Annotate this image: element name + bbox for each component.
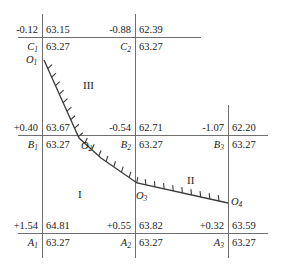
geological-section-figure: -0.1263.15C163.27-0.8862.39C263.27+0.406…: [0, 0, 285, 272]
value-B3: 62.20: [232, 123, 256, 134]
value-A3: 63.59: [232, 221, 256, 232]
base-value-A3: 63.27: [232, 238, 256, 249]
node-label-C2: C2: [61, 42, 131, 53]
region-III: III: [83, 79, 94, 91]
node-label-A1: A1: [0, 238, 38, 249]
hatch-tick: [129, 172, 131, 178]
node-label-A2: A2: [61, 238, 131, 249]
region-II: II: [187, 174, 194, 186]
horizontal-line-row-a: [18, 233, 268, 234]
hatch-tick: [164, 183, 165, 189]
vline-1: [42, 14, 43, 258]
node-label-B3: B3: [154, 140, 224, 151]
hatch-tick: [106, 156, 108, 162]
hatch-tick: [145, 179, 146, 185]
hatch-tick: [48, 65, 52, 69]
node-label-C1: C1: [0, 42, 38, 53]
hatch-tick: [191, 189, 192, 195]
hatch-tick: [52, 73, 56, 77]
base-value-B3: 63.27: [232, 140, 256, 151]
vline-2: [135, 14, 136, 258]
delta-B2: -0.54: [61, 123, 131, 134]
node-label-B1: B1: [0, 140, 38, 151]
delta-C2: -0.88: [61, 25, 131, 36]
delta-B1: +0.40: [0, 123, 38, 134]
point-label-O4: O4: [231, 196, 242, 207]
hatch-tick: [154, 181, 155, 187]
node-label-B2: B2: [61, 140, 131, 151]
horizontal-line-row-c: [18, 37, 201, 38]
region-I: I: [78, 188, 82, 200]
delta-A1: +1.54: [0, 221, 38, 232]
vline-3: [228, 105, 229, 258]
hatch-tick: [63, 99, 67, 103]
base-value-C2: 63.27: [139, 42, 163, 53]
node-label-A3: A3: [154, 238, 224, 249]
delta-A2: +0.55: [61, 221, 131, 232]
delta-C1: -0.12: [0, 25, 38, 36]
hatch-tick: [114, 161, 116, 167]
point-label-O3: O3: [136, 190, 147, 201]
hatch-tick: [182, 187, 183, 193]
hatch-tick: [55, 82, 59, 86]
hatch-tick: [209, 193, 210, 199]
delta-A3: +0.32: [154, 221, 224, 232]
hatch-tick: [137, 177, 138, 183]
hatch-tick: [200, 191, 201, 197]
hatch-tick: [59, 90, 63, 94]
hatch-tick: [71, 116, 75, 120]
delta-B3: -1.07: [154, 123, 224, 134]
hatch-tick: [173, 185, 174, 191]
hatch-tick: [99, 151, 101, 156]
horizontal-line-row-b: [18, 135, 268, 136]
point-label-O1: O1: [26, 54, 37, 65]
hatch-tick: [121, 167, 123, 173]
point-label-O2: O2: [81, 140, 92, 151]
hatch-tick: [67, 107, 71, 111]
value-C2: 62.39: [139, 25, 163, 36]
hatch-tick: [218, 195, 219, 201]
